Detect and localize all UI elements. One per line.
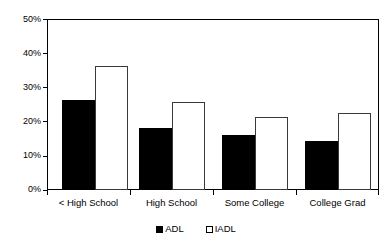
bar-adl-lt-high-school (62, 100, 95, 190)
legend-swatch-adl-icon (156, 226, 163, 233)
x-tick-label-high-school: High School (130, 197, 213, 208)
legend-label-iadl: IADL (215, 224, 236, 234)
x-tick-mark-4 (378, 190, 379, 195)
bar-chart: 50% 40% 30% 20% 10% 0% < High School Hig… (0, 0, 392, 250)
bar-adl-some-college (222, 135, 255, 190)
bar-iadl-some-college (255, 117, 288, 190)
bar-iadl-college-grad (338, 113, 371, 190)
x-tick-label-college-grad: College Grad (296, 197, 379, 208)
x-tick-label-lt-high-school: < High School (47, 197, 130, 208)
x-tick-mark-2 (213, 190, 214, 195)
legend-item-iadl: IADL (206, 224, 236, 234)
bar-iadl-high-school (172, 102, 205, 190)
chart-legend: ADL IADL (0, 224, 392, 234)
x-tick-mark-0 (47, 190, 48, 195)
x-tick-mark-1 (130, 190, 131, 195)
legend-label-adl: ADL (165, 224, 183, 234)
legend-item-adl: ADL (156, 224, 183, 234)
bar-iadl-lt-high-school (95, 66, 128, 190)
bar-adl-high-school (139, 128, 172, 190)
bar-adl-college-grad (305, 141, 338, 190)
x-tick-label-some-college: Some College (213, 197, 296, 208)
bars-layer (0, 0, 392, 250)
x-tick-mark-3 (296, 190, 297, 195)
legend-swatch-iadl-icon (206, 226, 213, 233)
